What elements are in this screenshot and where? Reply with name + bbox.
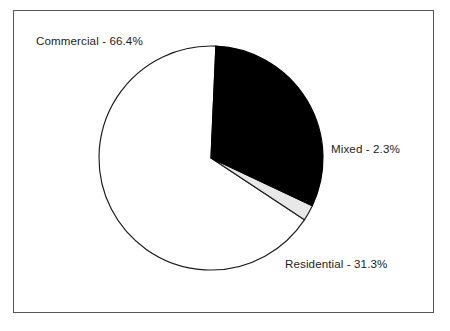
pie-chart-canvas [0,0,450,331]
pie-label-residential: Residential - 31.3% [285,258,387,271]
pie-label-commercial: Commercial - 66.4% [36,35,143,48]
pie-slices [99,46,323,270]
pie-chart-figure: Commercial - 66.4% Mixed - 2.3% Resident… [0,0,450,331]
pie-label-mixed: Mixed - 2.3% [331,143,400,156]
